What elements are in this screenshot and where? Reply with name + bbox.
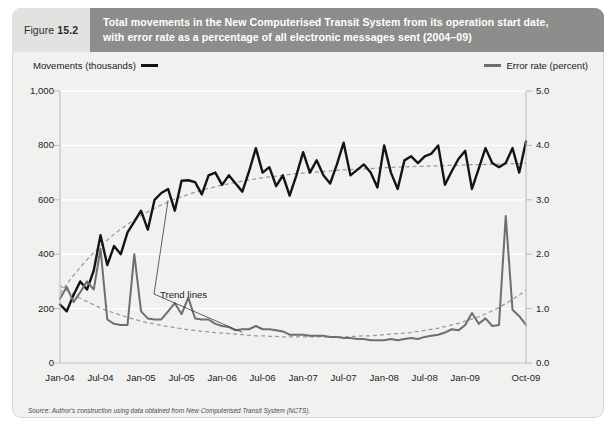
x-axis-tick: Jul-06 — [250, 372, 276, 383]
y-axis-left-tick: 200 — [0, 303, 54, 314]
y-axis-right-tick: 3.0 — [536, 194, 592, 205]
x-axis-tick: Jan-05 — [126, 372, 155, 383]
x-axis-tick: Jul-08 — [412, 372, 438, 383]
figure-root: Figure15.2 Total movements in the New Co… — [0, 0, 616, 428]
y-axis-left-tick: 400 — [0, 248, 54, 259]
y-axis-right-tick: 1.0 — [536, 303, 592, 314]
x-axis-tick: Jul-07 — [331, 372, 357, 383]
chart-plot: Trend lines — [12, 8, 604, 418]
y-axis-left-tick: 600 — [0, 194, 54, 205]
trend-lines-label: Trend lines — [160, 289, 207, 300]
x-axis-tick: Jul-05 — [168, 372, 194, 383]
y-axis-left-tick: 1,000 — [0, 85, 54, 96]
y-axis-right-tick: 0.0 — [536, 357, 592, 368]
x-axis-tick: Jan-08 — [370, 372, 399, 383]
x-axis-tick: Oct-09 — [512, 372, 541, 383]
y-axis-left-tick: 0 — [0, 357, 54, 368]
x-axis-tick: Jan-04 — [45, 372, 74, 383]
x-axis-tick: Jan-09 — [451, 372, 480, 383]
x-axis-tick: Jan-06 — [207, 372, 236, 383]
x-axis-tick: Jan-07 — [288, 372, 317, 383]
x-axis-tick: Jul-04 — [87, 372, 113, 383]
y-axis-right-tick: 5.0 — [536, 85, 592, 96]
y-axis-left-tick: 800 — [0, 139, 54, 150]
y-axis-right-tick: 4.0 — [536, 139, 592, 150]
source-note: Source: Author's construction using data… — [28, 407, 310, 414]
y-axis-right-tick: 2.0 — [536, 248, 592, 259]
